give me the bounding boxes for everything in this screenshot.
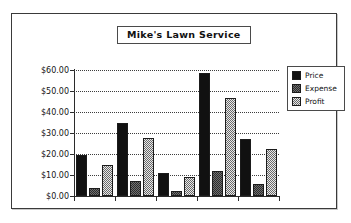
x-axis-line — [74, 196, 280, 197]
bar-expense[interactable] — [130, 181, 141, 196]
bar-price[interactable] — [117, 123, 128, 196]
legend-swatch-price-icon — [292, 71, 301, 80]
bar-group — [197, 70, 238, 196]
legend-item-price[interactable]: Price — [292, 71, 340, 80]
y-axis-tick-label: $50.00 — [41, 87, 69, 96]
bar-expense[interactable] — [89, 188, 100, 196]
bar-expense[interactable] — [212, 171, 223, 196]
bar-group — [156, 70, 197, 196]
legend-item-expense[interactable]: Expense — [292, 84, 340, 93]
y-axis-tick-label: $40.00 — [41, 108, 69, 117]
y-axis-tick-label: $60.00 — [41, 66, 69, 75]
bar-expense[interactable] — [253, 184, 264, 196]
bar-price[interactable] — [76, 155, 87, 196]
y-axis-tick-label: $20.00 — [41, 150, 69, 159]
page-title: Mike's Lawn Service — [127, 29, 241, 40]
bar-expense[interactable] — [171, 191, 182, 196]
x-axis-tick — [197, 196, 198, 201]
bar-profit[interactable] — [225, 98, 236, 196]
y-axis-tick-label: $30.00 — [41, 129, 69, 138]
bar-group — [238, 70, 279, 196]
bar-profit[interactable] — [102, 165, 113, 197]
y-axis-labels: $0.00$10.00$20.00$30.00$40.00$50.00$60.0… — [12, 70, 69, 196]
legend-label-profit: Profit — [305, 97, 325, 106]
bar-group — [74, 70, 115, 196]
bar-profit[interactable] — [266, 149, 277, 196]
bar-price[interactable] — [240, 139, 251, 196]
chart-title-box: Mike's Lawn Service — [117, 26, 251, 44]
bar-profit[interactable] — [184, 177, 195, 196]
legend-item-profit[interactable]: Profit — [292, 97, 340, 106]
legend-swatch-profit-icon — [292, 97, 301, 106]
y-axis-tick-label: $10.00 — [41, 171, 69, 180]
chart-frame: Mike's Lawn Service $0.00$10.00$20.00$30… — [11, 13, 337, 209]
bar-price[interactable] — [199, 73, 210, 196]
bar-group — [115, 70, 156, 196]
plot-area — [74, 70, 279, 196]
x-axis-tick — [115, 196, 116, 201]
y-axis-tick-label: $0.00 — [46, 192, 69, 201]
x-axis-tick — [74, 196, 75, 201]
x-axis-tick — [279, 196, 280, 201]
bar-price[interactable] — [158, 173, 169, 196]
chart-legend: Price Expense Profit — [287, 66, 345, 111]
legend-swatch-expense-icon — [292, 84, 301, 93]
legend-label-expense: Expense — [305, 84, 337, 93]
legend-label-price: Price — [305, 71, 323, 80]
bar-profit[interactable] — [143, 138, 154, 196]
x-axis-tick — [238, 196, 239, 201]
x-axis-tick — [156, 196, 157, 201]
